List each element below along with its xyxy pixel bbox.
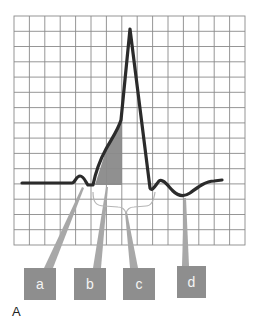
- panel-label: A: [12, 304, 21, 319]
- label-box-d: d: [177, 266, 206, 298]
- brace-c: [93, 192, 155, 213]
- label-box-b: b: [74, 268, 106, 300]
- label-box-c: c: [123, 268, 155, 300]
- label-b: b: [86, 276, 94, 292]
- label-d: d: [188, 274, 196, 290]
- grid: [14, 16, 245, 245]
- label-a: a: [36, 276, 44, 292]
- ecg-diagram: a b c d A: [0, 0, 259, 319]
- pointer-c: [125, 212, 138, 268]
- label-box-a: a: [24, 268, 56, 300]
- label-c: c: [136, 276, 143, 292]
